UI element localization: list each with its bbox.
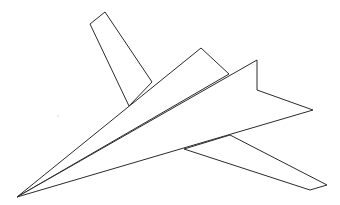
airplane-diagram (0, 0, 340, 205)
airplane-svg (0, 0, 340, 205)
stray-dot (57, 115, 58, 116)
lower-wing (184, 135, 327, 190)
vertical-fin (90, 12, 152, 106)
